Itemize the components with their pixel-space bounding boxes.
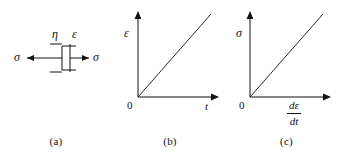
stress-strainrate-plot-svg — [228, 0, 345, 155]
y-axis-label: ε — [124, 27, 129, 39]
y-axis-arrowhead — [135, 11, 142, 19]
origin-label: 0 — [127, 100, 133, 111]
panel-a-caption: (a) — [0, 135, 112, 147]
x-axis-arrowhead — [211, 94, 219, 101]
x-axis-label-numerator: dε — [287, 99, 301, 114]
viscosity-label: η — [52, 28, 58, 40]
strain-label: ε — [72, 28, 77, 40]
origin-label: 0 — [239, 100, 245, 111]
figure-container: σ σ η ε (a) ε 0 t (b) — [0, 0, 345, 155]
y-axis-arrowhead — [247, 11, 254, 19]
strain-time-plot-svg — [112, 0, 228, 155]
panel-b-strain-time-plot: ε 0 t (b) — [112, 0, 228, 155]
stress-left-arrowhead — [27, 55, 34, 61]
x-axis-label-denominator: dt — [287, 114, 301, 128]
panel-c-caption: (c) — [228, 135, 345, 147]
panel-c-stress-strainrate-plot: σ 0 dε dt (c) — [228, 0, 345, 155]
stress-right-label: σ — [93, 51, 99, 63]
panel-a-dashpot: σ σ η ε (a) — [0, 0, 112, 155]
stress-right-arrowhead — [82, 55, 89, 61]
x-axis-arrowhead — [323, 94, 331, 101]
data-series-line — [138, 14, 211, 97]
x-axis-label-fraction: dε dt — [287, 99, 301, 127]
data-series-line — [250, 14, 323, 97]
y-axis-label: σ — [236, 27, 242, 39]
dashpot-diagram-svg — [0, 0, 112, 155]
panel-b-caption: (b) — [112, 135, 228, 147]
x-axis-label: t — [205, 101, 208, 112]
stress-left-label: σ — [14, 51, 20, 63]
